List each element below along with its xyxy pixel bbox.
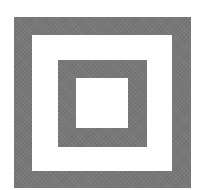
inner-white-center	[76, 78, 128, 128]
